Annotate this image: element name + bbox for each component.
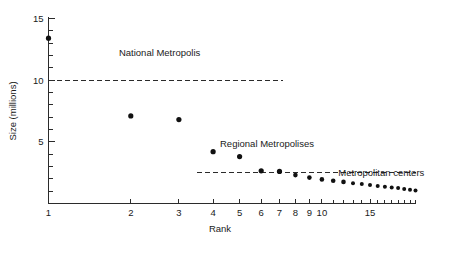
data-point bbox=[376, 184, 380, 188]
x-tick-label: 10 bbox=[317, 207, 328, 218]
data-point bbox=[390, 186, 394, 190]
data-point bbox=[237, 154, 242, 159]
tick-labels: 510151234567891015 bbox=[33, 13, 375, 218]
y-tick-label: 10 bbox=[33, 75, 44, 86]
y-axis-title: Size (millions) bbox=[7, 81, 18, 140]
data-point bbox=[414, 189, 418, 193]
x-tick-label: 1 bbox=[46, 207, 51, 218]
annotation-metropolitan-centers: Metropolitan centers bbox=[338, 167, 424, 178]
data-point bbox=[383, 185, 387, 189]
y-tick-label: 5 bbox=[38, 136, 43, 147]
plot-area: 510151234567891015 National MetropolisRe… bbox=[0, 0, 473, 258]
data-point bbox=[341, 180, 346, 185]
scatter-chart: 510151234567891015 National MetropolisRe… bbox=[0, 0, 473, 258]
data-point bbox=[360, 182, 364, 186]
data-point bbox=[408, 188, 412, 192]
x-tick-label: 15 bbox=[365, 207, 376, 218]
x-tick-label: 5 bbox=[237, 207, 242, 218]
x-tick-label: 9 bbox=[307, 207, 312, 218]
data-point bbox=[320, 177, 325, 182]
x-tick-label: 7 bbox=[277, 207, 282, 218]
data-point bbox=[368, 183, 372, 187]
x-tick-label: 4 bbox=[210, 207, 215, 218]
data-point bbox=[277, 169, 282, 174]
x-axis-title: Rank bbox=[209, 223, 231, 234]
data-point bbox=[293, 173, 298, 178]
x-tick-label: 8 bbox=[293, 207, 298, 218]
x-tick-label: 3 bbox=[176, 207, 181, 218]
data-point bbox=[259, 168, 264, 173]
data-point bbox=[402, 187, 406, 191]
x-tick-label: 2 bbox=[128, 207, 133, 218]
data-point bbox=[176, 117, 181, 122]
data-point bbox=[211, 149, 216, 154]
data-point bbox=[331, 178, 336, 183]
data-point bbox=[46, 36, 51, 41]
data-point bbox=[396, 186, 400, 190]
axis-titles: RankSize (millions) bbox=[7, 81, 231, 233]
data-point bbox=[128, 113, 133, 118]
y-tick-label: 15 bbox=[33, 13, 44, 24]
annotation-national-metropolis: National Metropolis bbox=[119, 47, 201, 58]
annotation-labels: National MetropolisRegional Metropolises… bbox=[119, 47, 425, 179]
annotation-regional-metropolises: Regional Metropolises bbox=[220, 138, 314, 149]
x-tick-label: 6 bbox=[259, 207, 264, 218]
data-point bbox=[351, 181, 355, 185]
data-point bbox=[307, 175, 312, 180]
reference-lines bbox=[49, 80, 416, 172]
